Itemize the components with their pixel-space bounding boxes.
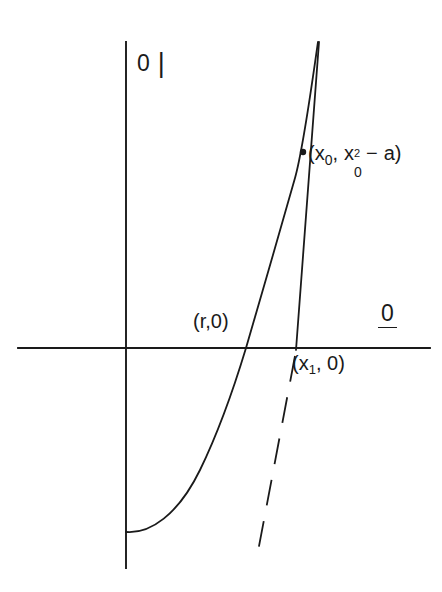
tangent-label-minus: − [366, 142, 378, 164]
x1-label-open: (x [292, 352, 309, 374]
parabola-curve [126, 42, 318, 532]
x1-label-subscript: 1 [309, 362, 316, 377]
tangent-point-label: (x0,x20−a) [308, 143, 402, 167]
x1-label-close: , 0) [316, 352, 345, 374]
tangent-point-dot [300, 149, 306, 155]
tangent-label-subscript-2: 0 [354, 165, 362, 179]
tangent-label-open: (x [308, 142, 325, 164]
tangent-label-x: x [344, 142, 354, 164]
tangent-line-solid [296, 42, 319, 350]
y-axis-label-text: 0 [137, 50, 151, 76]
figure-canvas: 0| 0 (r,0) (x1, 0) (x0,x20−a) [0, 0, 442, 592]
y-axis-label: 0| [137, 50, 166, 77]
root-point-label-text: (r,0) [193, 310, 229, 332]
tangent-label-a: a [384, 142, 395, 164]
tangent-label-comma: , [332, 142, 338, 164]
x-axis-label: 0 [378, 302, 397, 328]
tangent-line-dashed [256, 356, 295, 562]
tangent-label-close: ) [395, 142, 402, 164]
x-axis-label-text: 0 [378, 302, 397, 328]
y-axis-label-bar: | [158, 50, 166, 77]
x1-point-label: (x1, 0) [292, 353, 345, 376]
diagram-svg [0, 0, 442, 592]
tangent-label-superscript: 2 [354, 148, 360, 159]
root-point-label: (r,0) [193, 311, 229, 331]
